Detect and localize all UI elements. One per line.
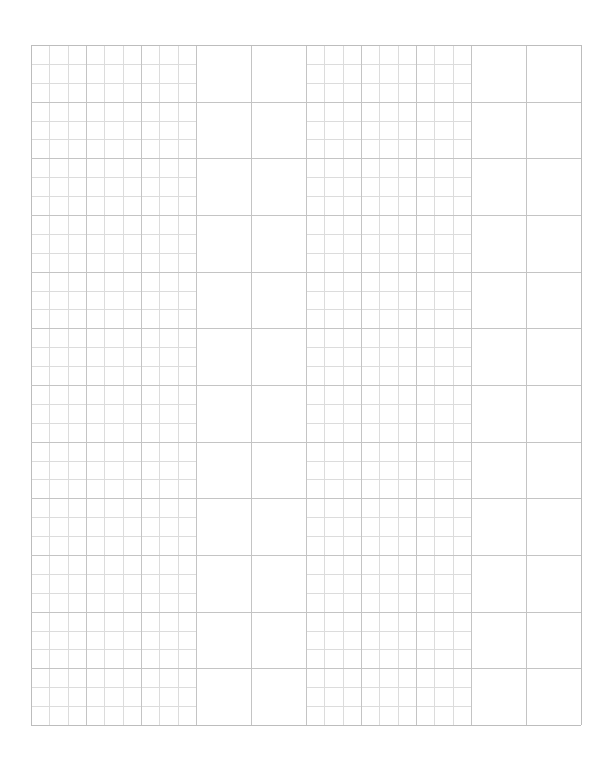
grid-paper [0, 0, 610, 763]
